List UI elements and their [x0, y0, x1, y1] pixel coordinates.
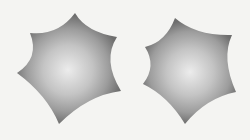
figure-canvas	[0, 0, 250, 140]
star-shape-right	[143, 18, 236, 124]
star-shape-left	[17, 13, 121, 124]
shapes-svg	[0, 0, 250, 140]
